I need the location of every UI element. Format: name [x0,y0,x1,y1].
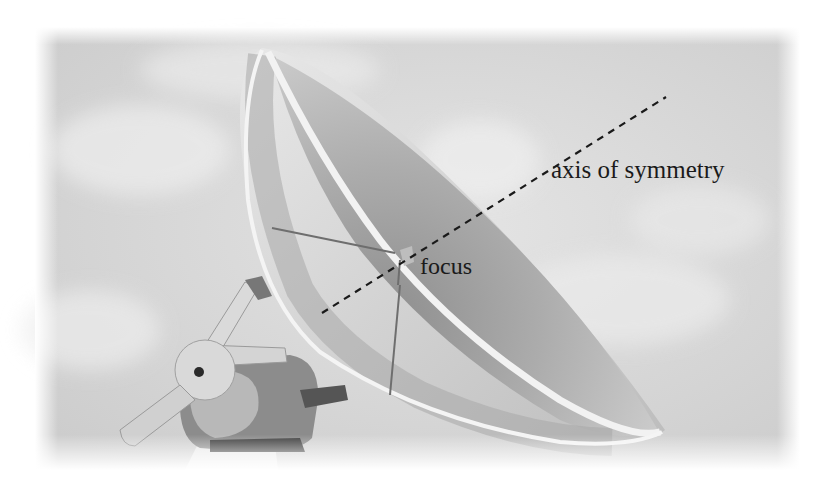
figure: axis of symmetry focus [0,0,829,481]
focus-label: focus [420,254,472,278]
dish-photo [0,0,829,481]
axis-of-symmetry-label: axis of symmetry [551,157,725,182]
